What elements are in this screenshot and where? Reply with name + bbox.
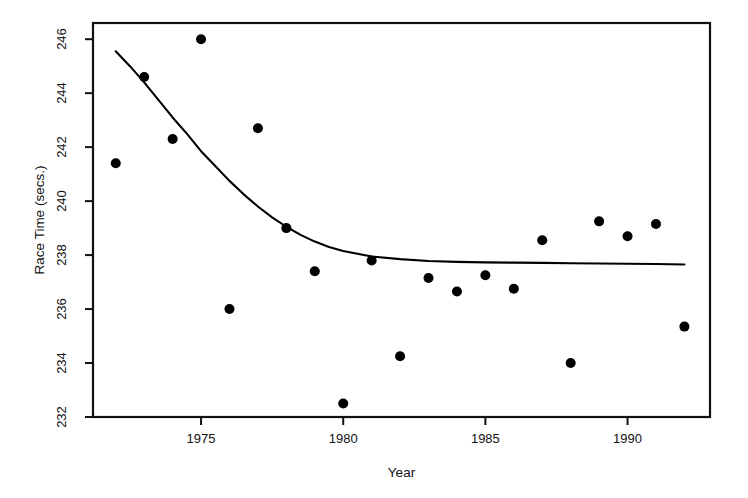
data-point	[281, 223, 291, 233]
x-tick-label: 1975	[171, 431, 231, 446]
race-time-scatter-chart: 2322342362382402422442461975198019851990…	[0, 0, 748, 498]
y-tick-label: 238	[53, 238, 71, 272]
data-point	[196, 34, 206, 44]
data-point	[480, 270, 490, 280]
x-tick-label: 1985	[455, 431, 515, 446]
data-point	[623, 231, 633, 241]
data-point	[651, 219, 661, 229]
y-tick-label: 236	[53, 292, 71, 326]
data-point	[509, 284, 519, 294]
y-tick-label: 244	[53, 76, 71, 110]
y-tick-label: 240	[53, 184, 71, 218]
data-point	[310, 266, 320, 276]
data-point	[338, 399, 348, 409]
data-point	[395, 351, 405, 361]
data-point	[537, 235, 547, 245]
data-point	[253, 123, 263, 133]
data-point	[367, 255, 377, 265]
y-tick-label: 232	[53, 400, 71, 434]
y-axis-title: Race Time (secs.)	[31, 23, 49, 417]
y-tick-label: 242	[53, 130, 71, 164]
y-tick-label: 234	[53, 346, 71, 380]
data-point	[679, 322, 689, 332]
y-tick-label: 246	[53, 22, 71, 56]
x-axis-title: Year	[93, 465, 710, 480]
data-point	[224, 304, 234, 314]
data-point	[566, 358, 576, 368]
x-tick-label: 1990	[598, 431, 658, 446]
data-point	[424, 273, 434, 283]
data-point	[452, 287, 462, 297]
plot-canvas	[0, 0, 748, 498]
data-point	[168, 134, 178, 144]
data-point	[594, 216, 604, 226]
data-point	[139, 72, 149, 82]
data-point	[111, 158, 121, 168]
chart-background	[0, 0, 748, 498]
x-tick-label: 1980	[313, 431, 373, 446]
